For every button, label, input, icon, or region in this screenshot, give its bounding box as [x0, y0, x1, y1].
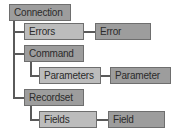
node-recordset-label: Recordset [29, 93, 73, 103]
node-fields-label: Fields [44, 115, 69, 125]
object-model-diagram: Connection Errors Error Command Paramete… [0, 0, 174, 134]
connector-recordset-trunk [30, 106, 32, 120]
node-connection-label: Connection [14, 8, 63, 18]
node-parameters[interactable]: Parameters [39, 67, 101, 84]
connector-command-trunk [30, 62, 32, 76]
node-parameter[interactable]: Parameter [110, 67, 171, 84]
node-errors-label: Errors [29, 27, 55, 37]
node-field-label: Field [113, 115, 134, 125]
node-parameters-label: Parameters [44, 71, 94, 81]
node-error-label: Error [100, 27, 121, 37]
node-error[interactable]: Error [95, 23, 151, 40]
node-errors[interactable]: Errors [24, 23, 84, 40]
node-parameter-label: Parameter [115, 71, 160, 81]
node-recordset[interactable]: Recordset [24, 89, 84, 106]
node-command-label: Command [29, 49, 74, 59]
node-command[interactable]: Command [24, 45, 84, 62]
node-field[interactable]: Field [108, 111, 165, 128]
node-fields[interactable]: Fields [39, 111, 97, 128]
node-connection[interactable]: Connection [9, 4, 71, 21]
